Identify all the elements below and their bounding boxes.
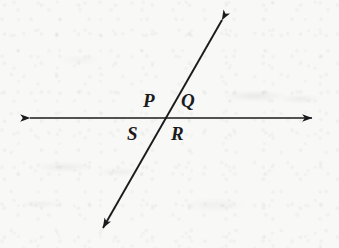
intersecting-lines-drawing — [0, 0, 339, 248]
angle-label-p: P — [143, 91, 155, 110]
diagonal-line — [103, 20, 222, 228]
geometry-figure: P Q S R — [0, 0, 339, 248]
angle-label-q: Q — [181, 91, 195, 110]
angle-label-s: S — [127, 124, 138, 143]
angle-label-r: R — [171, 124, 184, 143]
